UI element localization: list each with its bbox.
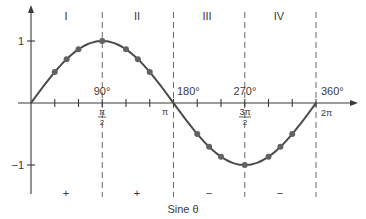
sine-point (147, 69, 153, 75)
quadrant-label-3: III (202, 10, 211, 22)
degree-label-90: 90° (94, 85, 111, 97)
radian-label-pi: π (162, 107, 168, 117)
quadrant-dividers (102, 12, 316, 197)
sine-point (206, 144, 212, 150)
sine-point (76, 46, 82, 52)
sine-point (64, 56, 70, 62)
sine-point (277, 144, 283, 150)
sign-quadrant-1: + (63, 187, 69, 199)
sine-point (218, 154, 224, 160)
sign-quadrant-4: − (277, 187, 283, 199)
y-axis-arrow-icon (28, 5, 34, 13)
radian-label-three-half-pi-num: 3π (239, 107, 250, 117)
sine-point (135, 56, 141, 62)
sine-chart: I II III IV 1 −1 90° 180° 270° 360° π 2 … (0, 0, 366, 219)
y-label-minus-one: −1 (11, 159, 24, 171)
sine-point (194, 131, 200, 137)
sine-point (52, 69, 58, 75)
chart-caption: Sine θ (167, 203, 198, 215)
radian-label-three-half-pi-den: 2 (243, 118, 248, 127)
degree-label-180: 180° (177, 85, 200, 97)
quadrant-label-1: I (64, 10, 67, 22)
axes (18, 5, 358, 194)
radian-label-two-pi: 2π (321, 108, 332, 118)
degree-label-360: 360° (321, 85, 344, 97)
sign-quadrant-3: − (206, 187, 212, 199)
radian-label-half-pi-num: π (99, 107, 105, 117)
quadrant-label-2: II (134, 10, 140, 22)
sine-point (123, 46, 129, 52)
quadrant-label-4: IV (274, 10, 285, 22)
sine-point (289, 131, 295, 137)
sine-point (242, 162, 248, 168)
radian-label-half-pi-den: 2 (100, 118, 105, 127)
sign-quadrant-2: + (134, 187, 140, 199)
sine-point (99, 38, 105, 44)
x-axis-arrow-icon (350, 100, 358, 106)
y-label-one: 1 (18, 35, 24, 47)
degree-label-270: 270° (234, 85, 257, 97)
sine-point (266, 154, 272, 160)
